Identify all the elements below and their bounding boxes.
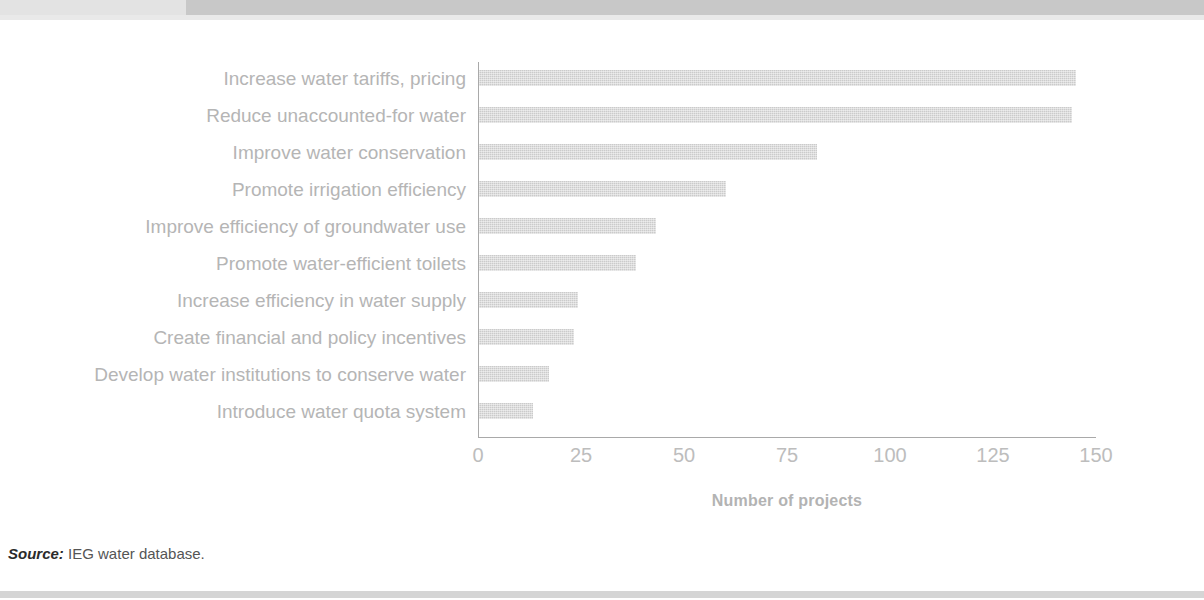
category-label: Improve water conservation: [233, 143, 466, 162]
category-label: Increase efficiency in water supply: [177, 291, 466, 310]
x-tick-label: 25: [570, 443, 592, 467]
x-tick-label: 50: [673, 443, 695, 467]
bar: [479, 329, 574, 345]
x-tick-label: 0: [472, 443, 483, 467]
category-axis-labels: Increase water tariffs, pricingReduce un…: [0, 62, 466, 437]
x-tick-label: 150: [1079, 443, 1112, 467]
bar: [479, 403, 533, 419]
x-axis-tick-labels: 0255075100125150: [478, 443, 1118, 473]
x-tick-label: 75: [776, 443, 798, 467]
source-note-label: Source:: [8, 545, 64, 562]
source-note-text: IEG water database.: [68, 545, 205, 562]
bar: [479, 181, 726, 197]
x-axis-title: Number of projects: [478, 492, 1096, 510]
bar: [479, 366, 549, 382]
category-label: Improve efficiency of groundwater use: [145, 217, 466, 236]
category-label: Create financial and policy incentives: [153, 328, 466, 347]
category-label: Develop water institutions to conserve w…: [94, 365, 466, 384]
category-label: Promote water-efficient toilets: [216, 254, 466, 273]
category-label: Increase water tariffs, pricing: [223, 69, 466, 88]
chart-figure: Increase water tariffs, pricingReduce un…: [0, 0, 1204, 600]
category-label: Reduce unaccounted-for water: [206, 106, 466, 125]
page-top-band-left-segment: [0, 0, 186, 15]
page-bottom-band: [0, 591, 1204, 598]
bar: [479, 107, 1072, 123]
bar: [479, 144, 817, 160]
x-tick-label: 100: [873, 443, 906, 467]
bar: [479, 70, 1076, 86]
x-axis-line: [478, 437, 1096, 438]
bar: [479, 218, 656, 234]
category-label: Promote irrigation efficiency: [232, 180, 466, 199]
bar: [479, 292, 578, 308]
category-label: Introduce water quota system: [217, 402, 466, 421]
x-tick-label: 125: [976, 443, 1009, 467]
page-top-band-shadow: [0, 15, 1204, 20]
chart-plot-area: [478, 62, 1096, 437]
source-note: Source: IEG water database.: [8, 545, 205, 562]
bar: [479, 255, 636, 271]
